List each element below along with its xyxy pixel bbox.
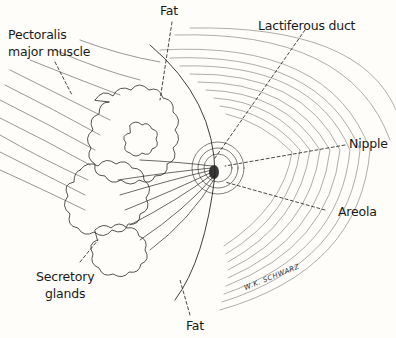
label-fat-bottom: Fat [186,317,204,334]
lactiferous-ducts [118,160,215,250]
label-secretory-glands: Secretory glands [36,268,94,302]
nipple-shape [209,165,219,179]
concentric-tissue-lines [160,28,396,310]
label-pectoralis-major-muscle: Pectoralis major muscle [8,26,90,60]
label-line-2: major muscle [8,43,90,60]
label-areola: Areola [338,203,377,220]
label-lactiferous-duct: Lactiferous duct [258,17,355,34]
label-fat-top: Fat [160,2,178,19]
label-nipple: Nipple [349,135,388,152]
secretory-gland-lobules [64,85,178,277]
label-line-2: glands [36,285,94,302]
fat-boundary [150,45,215,300]
pectoralis-fibres [0,40,160,210]
label-line-1: Pectoralis [8,26,90,43]
label-line-1: Secretory [36,268,94,285]
